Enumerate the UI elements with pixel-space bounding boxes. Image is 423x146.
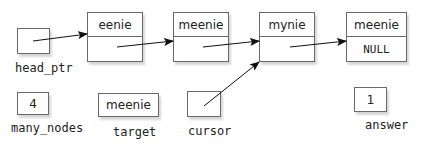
node-data: eenie [88,13,142,37]
target-value: meenie [99,94,158,116]
node-data: meenie [347,13,406,37]
cursor-box [187,91,221,117]
node-mynie: mynie [259,12,315,62]
many-nodes-label: many_nodes [11,121,83,135]
node-link-null: NULL [347,37,406,61]
target-box: meenie [98,93,159,117]
node-eenie: eenie [87,12,143,62]
cursor-label: cursor [188,124,231,138]
head-ptr-box [17,28,50,54]
node-meenie: meenie [173,12,229,62]
node-meenie-tail: meenie NULL [346,12,407,62]
cursor-value [188,92,220,116]
answer-label: answer [365,118,408,132]
node-link [260,37,314,61]
head-ptr-label: head_ptr [15,61,73,75]
node-data: mynie [260,13,314,37]
head-ptr-value [18,29,49,53]
answer-value: 1 [355,88,386,111]
answer-box: 1 [354,87,387,112]
node-link [174,37,228,61]
node-link [88,37,142,61]
linked-list-diagram: head_ptr eenie meenie mynie meenie NULL … [0,0,423,146]
target-label: target [113,125,156,139]
many-nodes-box: 4 [17,92,49,115]
many-nodes-value: 4 [18,93,48,114]
node-data: meenie [174,13,228,37]
